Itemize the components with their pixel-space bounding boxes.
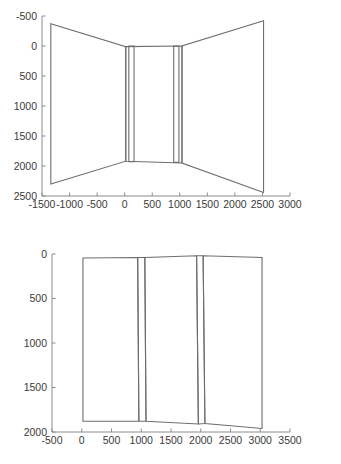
axis-lines: [52, 254, 290, 432]
y-tick-label: 2000: [24, 426, 48, 438]
y-tick-label: 1000: [14, 100, 38, 112]
x-tick-label: 0: [122, 198, 128, 210]
data-series-right-inner-column: [174, 46, 179, 162]
x-tick-label: 2000: [189, 434, 213, 446]
data-series-left-wall-outline: [51, 24, 126, 184]
data-series-right-wall-outline: [182, 21, 264, 193]
bottom-plot-figure: -500050010001500200025003000350005001000…: [0, 232, 341, 464]
top-plot-canvas: -1500-1000-500050010001500200025003000-5…: [0, 0, 341, 232]
y-tick-label: 1000: [24, 337, 48, 349]
y-tick-label: 500: [29, 292, 47, 304]
x-tick-label: 500: [143, 198, 161, 210]
y-tick-label: -500: [16, 10, 37, 22]
top-plot-figure: -1500-1000-500050010001500200025003000-5…: [0, 0, 341, 232]
x-tick-label: 3000: [249, 434, 273, 446]
data-series-left-inner-column: [138, 258, 146, 422]
y-tick-label: 0: [41, 248, 47, 260]
axis-lines: [42, 16, 290, 196]
x-tick-label: 3500: [278, 434, 302, 446]
x-tick-label: 2500: [219, 434, 243, 446]
data-series-right-bay-outline: [203, 256, 262, 429]
bottom-plot-canvas: -500050010001500200025003000350005001000…: [0, 232, 341, 464]
y-tick-label: 1500: [14, 130, 38, 142]
y-tick-label: 500: [19, 70, 37, 82]
y-tick-label: 2000: [14, 160, 38, 172]
x-tick-label: 1500: [196, 198, 220, 210]
x-tick-label: 0: [79, 434, 85, 446]
x-tick-label: 500: [103, 434, 121, 446]
x-tick-label: -500: [87, 198, 108, 210]
x-tick-label: 2500: [251, 198, 275, 210]
x-tick-label: 2000: [223, 198, 247, 210]
data-series-left-bay-outline: [83, 258, 139, 422]
y-tick-label: 2500: [14, 190, 38, 202]
x-tick-label: -1000: [56, 198, 83, 210]
x-tick-label: 3000: [278, 198, 302, 210]
data-series-mid-bay-outline: [145, 256, 199, 424]
y-tick-label: 0: [31, 40, 37, 52]
x-tick-label: 1000: [130, 434, 154, 446]
y-tick-label: 1500: [24, 381, 48, 393]
data-series-left-inner-column: [129, 46, 134, 162]
x-tick-label: 1500: [159, 434, 183, 446]
x-tick-label: 1000: [168, 198, 192, 210]
data-series-right-inner-column: [197, 256, 205, 424]
